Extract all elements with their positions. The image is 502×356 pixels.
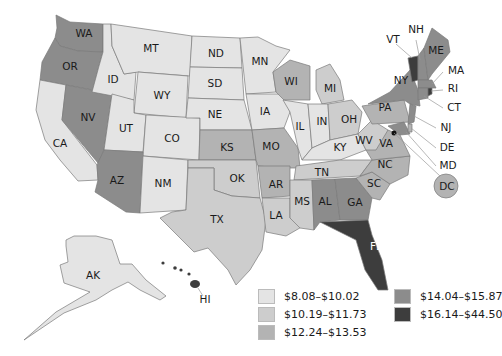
label-sd: SD — [208, 77, 223, 89]
label-ri: RI — [448, 82, 458, 94]
leader-md — [406, 132, 436, 166]
legend: $8.08–$10.02 $10.19–$11.73 $12.24–$13.53… — [258, 288, 490, 348]
label-ne: NE — [208, 108, 223, 120]
label-oh: OH — [341, 113, 357, 125]
leader-ri — [431, 90, 443, 91]
label-al: AL — [318, 195, 331, 207]
legend-swatch — [394, 307, 411, 322]
label-ca: CA — [53, 137, 68, 149]
label-ak: AK — [86, 269, 101, 281]
label-il: IL — [296, 120, 305, 132]
legend-item-3: $12.24–$13.53 — [258, 324, 366, 340]
label-nv: NV — [80, 111, 96, 123]
label-mo: MO — [262, 140, 279, 152]
state-ri — [428, 88, 432, 96]
label-az: AZ — [110, 174, 124, 186]
label-ct: CT — [447, 101, 461, 113]
label-tn: TN — [314, 166, 329, 178]
label-id: ID — [107, 73, 118, 85]
label-nc: NC — [377, 158, 392, 170]
legend-label: $8.08–$10.02 — [284, 290, 359, 303]
legend-label: $12.24–$13.53 — [284, 326, 366, 339]
label-ut: UT — [119, 122, 134, 134]
label-hi: HI — [200, 293, 211, 305]
label-vt: VT — [386, 33, 400, 45]
legend-label: $14.04–$15.87 — [420, 290, 502, 303]
leader-ct — [424, 96, 443, 108]
label-sc: SC — [367, 177, 381, 189]
label-ny: NY — [394, 74, 409, 86]
label-nm: NM — [155, 177, 172, 189]
label-va: VA — [379, 137, 394, 149]
label-wa: WA — [76, 27, 94, 39]
label-wi: WI — [284, 75, 297, 87]
leader-de — [411, 128, 436, 148]
state-fl — [320, 220, 388, 290]
label-tx: TX — [209, 213, 224, 225]
label-co: CO — [164, 132, 180, 144]
label-de: DE — [440, 141, 455, 153]
legend-swatch — [258, 289, 275, 304]
label-ar: AR — [269, 178, 283, 190]
leader-nj — [414, 116, 436, 128]
label-nd: ND — [208, 47, 224, 59]
label-wv: WV — [355, 134, 373, 146]
label-ky: KY — [334, 141, 348, 153]
label-or: OR — [62, 60, 78, 72]
label-wy: WY — [154, 89, 171, 101]
label-ma: MA — [448, 64, 465, 76]
leader-ma — [432, 72, 443, 84]
label-in: IN — [317, 115, 328, 127]
legend-swatch — [258, 307, 275, 322]
label-nh: NH — [408, 23, 424, 35]
label-ms: MS — [294, 195, 310, 207]
leader-vt — [396, 44, 412, 58]
state-ct — [418, 88, 428, 100]
label-mt: MT — [143, 42, 159, 54]
label-mn: MN — [252, 55, 269, 67]
legend-swatch — [258, 325, 275, 340]
label-pa: PA — [379, 101, 393, 113]
label-me: ME — [428, 44, 444, 56]
label-ok: OK — [229, 172, 245, 184]
legend-swatch — [394, 289, 411, 304]
state-nj — [408, 104, 416, 124]
label-la: LA — [269, 209, 283, 221]
legend-item-2: $10.19–$11.73 — [258, 306, 366, 322]
label-ia: IA — [260, 105, 271, 117]
label-nj: NJ — [441, 121, 452, 133]
label-md: MD — [439, 159, 456, 171]
state-ak — [24, 236, 166, 340]
label-ga: GA — [347, 196, 363, 208]
legend-label: $16.14–$44.50 — [420, 308, 502, 321]
label-dc: DC — [439, 180, 454, 192]
legend-item-4: $14.04–$15.87 — [394, 288, 502, 304]
legend-label: $10.19–$11.73 — [284, 308, 366, 321]
state-hi — [161, 261, 200, 288]
legend-item-1: $8.08–$10.02 — [258, 288, 359, 304]
state-ma — [418, 80, 436, 88]
label-ks: KS — [220, 141, 234, 153]
legend-item-5: $16.14–$44.50 — [394, 306, 502, 322]
label-mi: MI — [324, 82, 336, 94]
label-fl: FL — [370, 240, 382, 252]
